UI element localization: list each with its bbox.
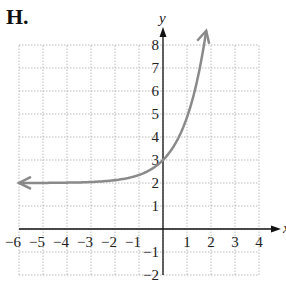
- y-tick-label: 6: [152, 83, 160, 99]
- y-tick-label: 2: [152, 175, 160, 191]
- x-axis-label: x: [282, 220, 286, 236]
- y-tick-label: 7: [152, 60, 160, 76]
- x-axis-arrow-icon: [271, 226, 281, 233]
- y-tick-label: −1: [143, 244, 159, 260]
- y-tick-label: 8: [152, 37, 160, 53]
- x-tick-label: −2: [101, 234, 117, 250]
- exponential-graph: xy−6−5−4−3−2−11234−2−112345678: [0, 0, 286, 283]
- y-tick-label: 5: [152, 106, 160, 122]
- x-tick-label: −3: [77, 234, 93, 250]
- y-tick-label: 4: [152, 129, 160, 145]
- x-tick-label: 4: [255, 234, 263, 250]
- right-arrow-icon: [197, 31, 209, 44]
- y-tick-label: −2: [143, 267, 159, 283]
- x-tick-label: −5: [29, 234, 45, 250]
- y-axis-arrow-icon: [160, 27, 167, 37]
- x-tick-label: 1: [183, 234, 191, 250]
- x-tick-label: −6: [5, 234, 21, 250]
- x-tick-label: −1: [125, 234, 141, 250]
- x-tick-label: −4: [53, 234, 69, 250]
- y-tick-label: 1: [152, 198, 160, 214]
- x-tick-label: 3: [231, 234, 239, 250]
- x-tick-label: 2: [207, 234, 215, 250]
- y-axis-label: y: [157, 10, 166, 26]
